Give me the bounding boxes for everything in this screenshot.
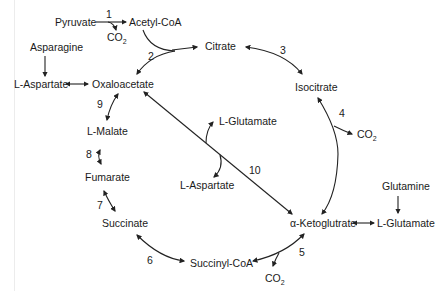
step-8: 8 <box>86 148 92 160</box>
arrow-step6 <box>137 235 184 261</box>
label-succinate: Succinate <box>102 217 148 229</box>
label-l-glutamate-right: L-Glutamate <box>377 217 435 229</box>
arrow-step3 <box>246 47 302 74</box>
label-co2-step1: CO2 <box>107 31 127 45</box>
label-glutamine: Glutamine <box>382 180 430 192</box>
label-pyruvate: Pyruvate <box>55 16 97 28</box>
label-citrate: Citrate <box>205 40 236 52</box>
arrow-step7 <box>104 191 115 211</box>
arrow-step2-from-oxaloacetate <box>137 51 175 74</box>
step-10: 10 <box>249 164 261 176</box>
step-3: 3 <box>280 44 286 56</box>
label-l-aspartate-left: L-Aspartate <box>14 78 68 90</box>
label-fumarate: Fumarate <box>85 171 130 183</box>
label-alpha-ketoglutarate: α-Ketoglutrate <box>290 217 356 229</box>
tca-cycle-diagram: Pyruvate Acetyl-CoA 1 CO2 Citrate 2 3 Is… <box>0 0 438 291</box>
step-9: 9 <box>97 98 103 110</box>
step-7: 7 <box>97 199 103 211</box>
step-6: 6 <box>147 254 153 266</box>
arrow-step10 <box>144 92 292 214</box>
label-co2-step5: CO2 <box>265 272 285 286</box>
arrow-step10-aspartate <box>214 155 221 177</box>
arrow-step8 <box>99 150 101 164</box>
label-oxaloacetate: Oxaloacetate <box>92 78 154 90</box>
label-l-glutamate-center: L-Glutamate <box>219 115 277 127</box>
label-asparagine: Asparagine <box>30 41 83 53</box>
arrow-step2-in <box>143 30 175 51</box>
label-co2-step4: CO2 <box>357 128 377 142</box>
label-l-aspartate-center: L-Aspartate <box>180 179 234 191</box>
arrow-step9 <box>107 94 118 120</box>
label-l-malate: L-Malate <box>87 125 128 137</box>
step-1: 1 <box>106 8 112 20</box>
label-isocitrate: Isocitrate <box>295 81 338 93</box>
arrow-step2-to-citrate <box>172 47 197 50</box>
arrow-step4 <box>318 98 338 214</box>
step-4: 4 <box>339 107 345 119</box>
step-5: 5 <box>299 246 305 258</box>
arrow-step5 <box>253 234 304 261</box>
arrow-co2-step1 <box>108 22 116 30</box>
arrow-step10-glutamate <box>206 122 213 143</box>
label-acetyl-coa: Acetyl-CoA <box>129 16 182 28</box>
arrow-co2-step4 <box>334 126 352 134</box>
label-succinyl-coa: Succinyl-CoA <box>190 257 253 269</box>
